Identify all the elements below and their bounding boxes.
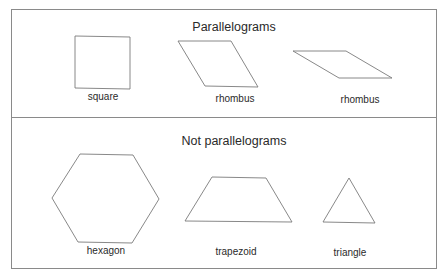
rhombus-label: rhombus xyxy=(341,95,380,105)
hexagon-label: hexagon xyxy=(87,246,125,256)
trapezoid-shape xyxy=(185,177,292,222)
section-heading-parallelograms: Parallelograms xyxy=(192,21,275,34)
triangle-label: triangle xyxy=(334,248,367,258)
trapezoid-label: trapezoid xyxy=(215,247,256,257)
square-label: square xyxy=(88,92,119,102)
section-heading-not-parallelograms: Not parallelograms xyxy=(182,135,287,148)
hexagon-shape xyxy=(52,154,159,243)
rhombus-shape xyxy=(178,41,258,87)
shapes-classification-diagram: Parallelograms Not parallelograms square… xyxy=(0,0,445,276)
triangle-shape xyxy=(323,178,375,223)
rhombus-shape xyxy=(293,51,392,78)
rhombus-label: rhombus xyxy=(216,94,255,104)
square-shape xyxy=(75,36,130,89)
